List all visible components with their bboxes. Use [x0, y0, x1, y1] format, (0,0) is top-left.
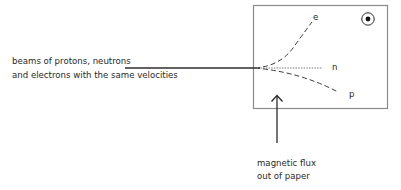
magnetic-flux-arrow-icon: [272, 96, 283, 144]
field-out-of-page-icon: [362, 13, 374, 25]
field-label-line2: out of paper: [257, 172, 310, 181]
field-label-line1: magnetic flux: [257, 159, 316, 168]
beam-label-line1: beams of protons, neutrons: [12, 57, 131, 66]
proton-label: p: [349, 90, 354, 99]
diagram-canvas: [0, 0, 401, 190]
proton-path: [255, 68, 338, 92]
electron-path: [255, 22, 312, 68]
electron-label: e: [313, 13, 318, 22]
neutron-label: n: [332, 63, 337, 72]
beam-label-line2: and electrons with the same velocities: [12, 71, 178, 80]
